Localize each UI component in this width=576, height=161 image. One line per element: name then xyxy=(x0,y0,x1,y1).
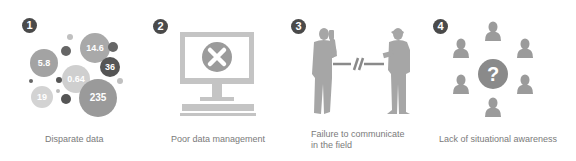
data-bubble: 5.8 xyxy=(30,49,58,77)
person-icon xyxy=(485,98,501,118)
person-icon xyxy=(453,39,469,59)
person-tablet-icon xyxy=(381,28,421,118)
person-icon xyxy=(485,22,501,42)
panel-lack-of-situational-awareness: 4 ? Lack of situational awareness xyxy=(432,0,576,161)
data-bubble: 19 xyxy=(31,86,53,108)
panel-failure-to-communicate: 3 Failure to communicate in the field xyxy=(288,0,432,161)
person-icon xyxy=(517,75,533,95)
dot-bubble xyxy=(67,34,73,40)
data-bubble: 235 xyxy=(79,79,117,117)
caption-line-2: in the field xyxy=(311,140,405,151)
panel-poor-data-management: 2 Poor data management xyxy=(144,0,288,161)
dot-bubble xyxy=(56,89,60,93)
dot-bubble xyxy=(108,42,118,52)
caption-poor-data-management: Poor data management xyxy=(171,134,265,145)
step-number-badge: 3 xyxy=(291,19,306,34)
caption-lack-of-situational-awareness: Lack of situational awareness xyxy=(439,134,557,145)
caption-disparate-data: Disparate data xyxy=(45,134,104,145)
computer-error-icon xyxy=(144,0,288,120)
dot-bubble xyxy=(61,94,71,104)
dot-bubble xyxy=(56,77,62,83)
caption-failure-to-communicate: Failure to communicate in the field xyxy=(311,129,405,151)
step-number-badge: 1 xyxy=(22,18,37,33)
panel-disparate-data: 1 14.65.8360.6419235 Disparate data xyxy=(0,0,144,161)
person-icon xyxy=(453,75,469,95)
person-icon xyxy=(517,39,533,59)
dot-bubble xyxy=(61,46,71,56)
caption-line-1: Failure to communicate xyxy=(311,129,405,140)
data-bubble: 36 xyxy=(100,57,120,77)
question-mark-icon: ? xyxy=(478,61,508,87)
dot-bubble xyxy=(29,79,33,83)
dot-bubble xyxy=(117,78,123,84)
